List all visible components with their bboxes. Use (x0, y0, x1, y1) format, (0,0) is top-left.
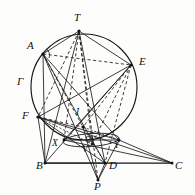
geometry-figure: T A E Γ F I X V Y B D C P (0, 0, 195, 195)
point-label-Gamma: Γ (17, 76, 23, 87)
point-label-C: C (175, 160, 182, 171)
vertex-dot-E (129, 63, 132, 66)
vertex-dot-I (82, 126, 85, 129)
vertex-dot-X (63, 139, 66, 142)
segment-Y-C (119, 140, 172, 163)
point-label-T: T (74, 12, 80, 23)
vertex-dot-B (44, 162, 47, 165)
point-label-F: F (22, 110, 29, 121)
point-label-Y: Y (114, 141, 119, 151)
point-label-I: I (76, 108, 79, 118)
point-label-V: V (82, 145, 88, 155)
point-label-E: E (139, 56, 146, 67)
point-label-D: D (109, 160, 117, 171)
dashed-segments-group (38, 31, 131, 180)
segment-E-I-dashed (83, 65, 131, 127)
vertex-dot-C (171, 162, 174, 165)
point-label-P: P (94, 181, 101, 192)
solid-segments-group (38, 31, 172, 180)
vertex-dot-F (36, 115, 39, 118)
vertex-dot-A (41, 52, 44, 55)
segment-T-E (79, 31, 131, 65)
segment-A-E-dashed (43, 54, 131, 65)
point-label-X: X (52, 139, 58, 149)
vertex-dot-V (91, 143, 94, 146)
vertex-dot-D (104, 162, 107, 165)
point-label-B: B (36, 160, 43, 171)
vertex-dot-T (77, 29, 80, 32)
geometry-diagram-canvas (0, 0, 195, 195)
segment-A-B (43, 54, 45, 163)
point-label-A: A (27, 40, 34, 51)
